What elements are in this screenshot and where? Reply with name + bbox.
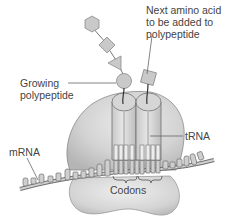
label-line: Next amino acid	[146, 4, 221, 16]
diamond-amino-acid	[99, 37, 115, 53]
circle-amino-acid	[117, 74, 132, 89]
label-line: polypeptide	[20, 89, 74, 101]
translation-diagram: Next amino acid to be added to polypepti…	[0, 0, 234, 222]
trna-left	[112, 93, 136, 160]
next-amino-acid-label: Next amino acid to be added to polypepti…	[146, 4, 221, 40]
trna-right	[136, 93, 161, 160]
codons-label: Codons	[110, 184, 146, 196]
label-line: Growing	[20, 77, 74, 89]
growing-polypeptide-label: Growing polypeptide	[20, 77, 74, 101]
hexagon-amino-acid	[85, 16, 99, 32]
label-line: polypeptide	[146, 28, 221, 40]
mrna-label: mRNA	[9, 146, 40, 158]
label-line: to be added to	[146, 16, 221, 28]
trna-label: tRNA	[185, 130, 210, 142]
polypeptide-chain	[85, 16, 132, 104]
